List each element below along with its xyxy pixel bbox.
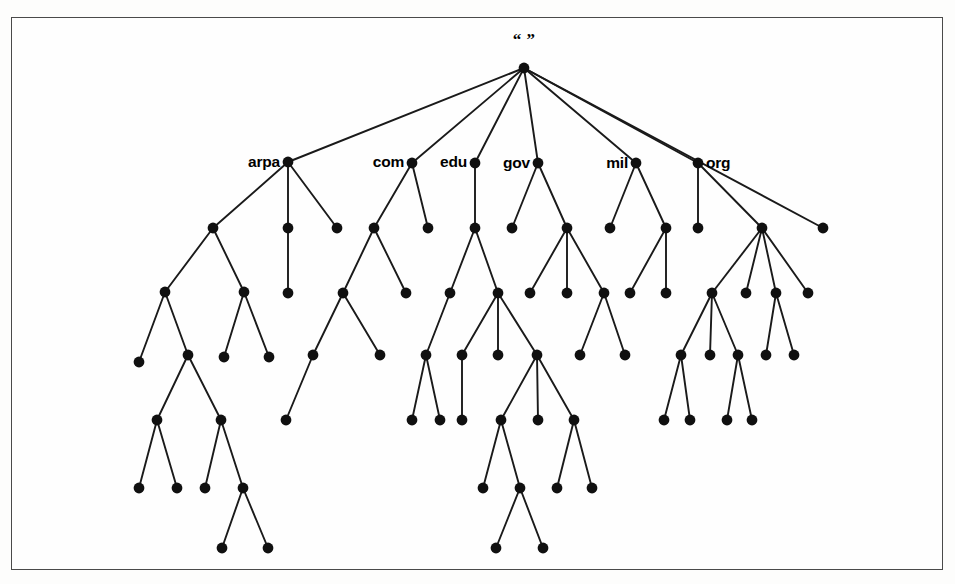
- tree-node: [733, 350, 744, 361]
- tree-edge: [498, 293, 537, 355]
- tree-edge: [537, 355, 574, 420]
- tree-edge: [681, 293, 712, 355]
- tree-node: [707, 288, 718, 299]
- tree-node: [569, 415, 580, 426]
- tree-edge: [520, 488, 543, 548]
- tree-node: [470, 223, 481, 234]
- tree-node: [803, 288, 814, 299]
- tree-node: [625, 288, 636, 299]
- tld-arpa: [283, 157, 294, 168]
- tree-node: [283, 223, 294, 234]
- dns-tree-diagram: “ ”arpacomedugovmilorg: [0, 0, 955, 584]
- tree-node: [369, 223, 380, 234]
- tree-node: [562, 288, 573, 299]
- tree-node: [407, 415, 418, 426]
- tld-gov: [533, 158, 544, 169]
- tld-com: [407, 158, 418, 169]
- tree-node: [532, 350, 543, 361]
- tree-edge: [222, 488, 243, 548]
- tree-edge: [244, 292, 269, 357]
- figure-container: “ ”arpacomedugovmilorg: [0, 0, 955, 584]
- tree-node: [421, 350, 432, 361]
- tree-node: [552, 483, 563, 494]
- tree-edge: [496, 488, 520, 548]
- tree-edge: [580, 293, 604, 355]
- tree-edge: [343, 293, 380, 355]
- tree-edge: [630, 228, 666, 293]
- tree-node: [722, 415, 733, 426]
- tree-edge: [524, 68, 636, 163]
- root-label: “ ”: [513, 30, 536, 49]
- tree-edge: [738, 355, 752, 420]
- tree-edge: [530, 228, 567, 293]
- tree-edge: [450, 228, 475, 293]
- tree-edge: [727, 355, 738, 420]
- tree-node: [134, 483, 145, 494]
- tree-edge: [574, 420, 592, 488]
- tree-edge: [213, 162, 288, 228]
- tree-edge: [288, 162, 337, 228]
- tree-node: [208, 223, 219, 234]
- tree-node: [491, 543, 502, 554]
- tree-node: [264, 352, 275, 363]
- tree-node: [401, 288, 412, 299]
- tree-edge: [501, 420, 520, 488]
- tld-mil: [631, 158, 642, 169]
- tree-node: [219, 352, 230, 363]
- root-node: [519, 63, 530, 74]
- tree-edge: [537, 355, 538, 420]
- tld-label-mil: mil: [606, 154, 628, 171]
- tree-node: [332, 223, 343, 234]
- tree-node: [435, 415, 446, 426]
- tree-node: [761, 350, 772, 361]
- tree-edge: [557, 420, 574, 488]
- tree-edge: [288, 68, 524, 162]
- tree-edge: [512, 163, 538, 228]
- tree-edge: [610, 163, 636, 228]
- tree-node: [375, 350, 386, 361]
- tree-edge: [664, 355, 681, 420]
- tld-label-org: org: [706, 154, 730, 171]
- tree-node: [515, 483, 526, 494]
- node-layer: [134, 63, 829, 554]
- tree-node: [445, 288, 456, 299]
- tree-node: [599, 288, 610, 299]
- tree-node: [757, 223, 768, 234]
- tree-edge: [374, 163, 412, 228]
- tree-node: [160, 287, 171, 298]
- tree-node: [587, 483, 598, 494]
- tree-node: [747, 415, 758, 426]
- tree-node: [216, 415, 227, 426]
- tree-node: [263, 543, 274, 554]
- tree-edge: [188, 355, 221, 420]
- tree-edge: [157, 420, 177, 488]
- tree-node: [281, 415, 292, 426]
- tree-edge: [426, 293, 450, 355]
- tree-node: [659, 415, 670, 426]
- tree-edge: [538, 163, 567, 228]
- tree-node: [562, 223, 573, 234]
- tree-node: [525, 288, 536, 299]
- tree-edge: [165, 292, 188, 355]
- tree-edge: [712, 293, 738, 355]
- tree-node: [705, 350, 716, 361]
- tree-node: [533, 415, 544, 426]
- tree-node: [338, 288, 349, 299]
- tree-node: [605, 223, 616, 234]
- tree-edge: [221, 420, 243, 488]
- tree-edge: [462, 293, 498, 355]
- tree-node: [538, 543, 549, 554]
- tree-edge: [412, 163, 428, 228]
- tree-edge: [224, 292, 244, 357]
- tree-edge: [412, 68, 524, 163]
- tld-label-arpa: arpa: [248, 153, 281, 170]
- tree-edge: [681, 355, 690, 420]
- tree-edge: [524, 68, 823, 228]
- tree-edge: [776, 293, 794, 355]
- tree-node: [183, 350, 194, 361]
- tree-node: [238, 483, 249, 494]
- tree-edge: [313, 293, 343, 355]
- tree-edge: [213, 228, 244, 292]
- tree-node: [789, 350, 800, 361]
- tree-node: [134, 357, 145, 368]
